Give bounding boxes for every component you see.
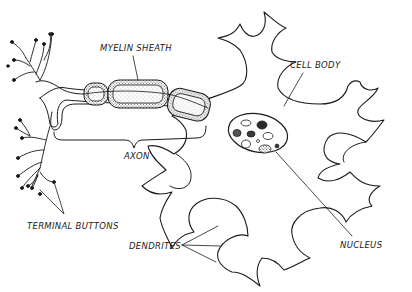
- myelin-segment-inner: [88, 87, 104, 101]
- nucleus-leader: [276, 152, 352, 236]
- organelle: [259, 145, 271, 153]
- organelle: [233, 130, 241, 137]
- terminal-buttons-label: TERMINAL BUTTONS: [27, 221, 119, 231]
- cell-body-leader: [284, 73, 303, 106]
- organelle: [242, 140, 251, 148]
- organelle: [257, 121, 267, 129]
- terminal-buttons-leader: [40, 182, 64, 214]
- terminal-branches-upper: [7, 33, 54, 82]
- dendrites-label: DENDRITES: [129, 241, 181, 251]
- axon-label: AXON: [124, 151, 150, 161]
- organelle: [247, 131, 255, 137]
- myelin-sheath-leader: [133, 56, 138, 80]
- dendrite-lobe-right: [343, 142, 366, 162]
- nucleus-label: NUCLEUS: [340, 240, 382, 250]
- organelle: [275, 144, 279, 148]
- myelin-sheath: [84, 80, 213, 123]
- dendrites-leader: [182, 226, 220, 262]
- nucleus: [225, 108, 292, 158]
- neuron-diagram: MYELIN SHEATH CELL BODY AXON TERMINAL BU…: [0, 0, 412, 292]
- myelin-sheath-label: MYELIN SHEATH: [100, 43, 172, 53]
- organelle: [263, 133, 273, 140]
- cell-body-label: CELL BODY: [290, 60, 340, 70]
- organelle: [241, 120, 251, 126]
- organelle: [257, 140, 260, 143]
- terminal-branches-lower: [15, 119, 56, 196]
- dendrite-lobe-left: [170, 154, 191, 189]
- myelin-segment-inner: [113, 85, 163, 103]
